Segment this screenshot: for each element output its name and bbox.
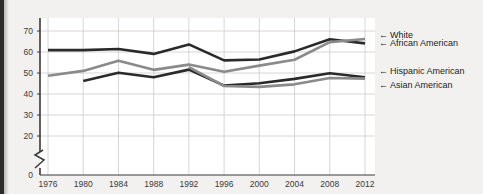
legend-entry-label: Hispanic American bbox=[390, 66, 465, 76]
x-axis-tick-label: 2000 bbox=[250, 179, 269, 189]
x-axis-tick-label: 1980 bbox=[74, 179, 93, 189]
x-axis-tick-labels: 1976198019841988199219962000200420082012 bbox=[39, 179, 375, 189]
y-axis-tick-label: 70 bbox=[24, 26, 34, 36]
y-axis-tick-label: 60 bbox=[24, 47, 34, 57]
x-axis-tick-label: 1992 bbox=[179, 179, 198, 189]
legend-entry-label: Asian American bbox=[390, 80, 453, 90]
x-axis-tick-label: 1988 bbox=[144, 179, 163, 189]
figure-page: 7060504030200 19761980198419881992199620… bbox=[0, 0, 483, 194]
legend-arrow-icon: ← bbox=[379, 38, 388, 48]
chart-svg: 7060504030200 19761980198419881992199620… bbox=[0, 0, 483, 194]
y-axis-tick-label: 50 bbox=[24, 68, 34, 78]
x-axis-tick-label: 2012 bbox=[356, 179, 375, 189]
y-axis-tick-label: 0 bbox=[28, 170, 33, 180]
y-axis-tick-label: 20 bbox=[24, 131, 34, 141]
x-axis-tick-label: 1976 bbox=[39, 179, 58, 189]
x-axis-tick-label: 1996 bbox=[215, 179, 234, 189]
legend-entry: ←Hispanic American bbox=[379, 66, 465, 76]
legend-arrow-icon: ← bbox=[379, 80, 388, 90]
voter-turnout-line-chart: 7060504030200 19761980198419881992199620… bbox=[0, 0, 483, 194]
chart-legend: ←White←African American←Hispanic America… bbox=[379, 30, 465, 89]
legend-arrow-icon: ← bbox=[379, 66, 388, 76]
x-axis-tick-label: 2004 bbox=[285, 179, 304, 189]
legend-entry: ←Asian American bbox=[379, 80, 453, 90]
y-axis-tick-labels: 7060504030200 bbox=[24, 26, 34, 180]
y-axis-tick-label: 30 bbox=[24, 110, 34, 120]
y-axis-tick-label: 40 bbox=[24, 89, 34, 99]
x-axis-tick-label: 1984 bbox=[109, 179, 128, 189]
legend-entry-label: African American bbox=[390, 38, 458, 48]
x-axis-tick-label: 2008 bbox=[320, 179, 339, 189]
legend-entry: ←African American bbox=[379, 38, 458, 48]
